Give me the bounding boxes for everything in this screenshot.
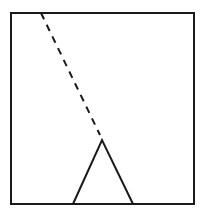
square-frame: [11, 13, 194, 204]
triangle-shape: [73, 140, 133, 204]
diagram-canvas: [0, 0, 206, 214]
dashed-line: [41, 13, 100, 135]
